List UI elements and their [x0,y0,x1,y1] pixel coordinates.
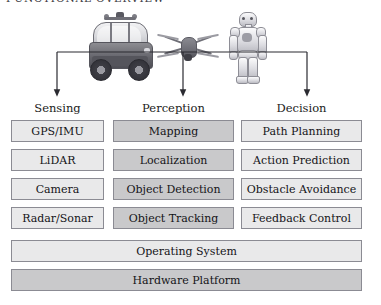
quadcopter-drone-image [160,30,216,68]
block-hardware-platform[interactable]: Hardware Platform [11,269,362,291]
block-object-detection[interactable]: Object Detection [113,178,234,200]
block-object-tracking[interactable]: Object Tracking [113,207,234,229]
block-mapping[interactable]: Mapping [113,120,234,142]
diagram-canvas: FUNCTIONAL OVERVIEW [0,0,381,305]
block-action-prediction[interactable]: Action Prediction [241,149,362,171]
robot-eye-right [250,17,253,20]
column-header-decision: Decision [241,101,362,115]
block-path-planning[interactable]: Path Planning [241,120,362,142]
column-header-sensing: Sensing [11,101,104,115]
block-obstacle-avoidance[interactable]: Obstacle Avoidance [241,178,362,200]
robot-hand-left [229,51,238,60]
robot-eye-left [242,17,245,20]
humanoid-robot-image [224,10,270,90]
car-window [97,26,141,42]
car-roof-bar [104,17,136,20]
block-localization[interactable]: Localization [113,149,234,171]
block-camera[interactable]: Camera [11,178,104,200]
block-gps-imu[interactable]: GPS/IMU [11,120,104,142]
robot-chest-panel [242,33,252,42]
drone-propeller-rear-left [157,52,179,58]
car-headlamp [144,48,150,53]
drone-camera-gimbal [184,54,192,61]
block-feedback-control[interactable]: Feedback Control [241,207,362,229]
column-header-perception: Perception [113,101,234,115]
robot-foot-right [247,76,260,84]
block-radar-sonar[interactable]: Radar/Sonar [11,207,104,229]
autonomous-car-image [84,12,158,86]
drone-propeller-front-right [197,34,219,41]
robot-hand-right [258,51,267,60]
car-wheel-rear [90,59,112,81]
car-wheel-front [128,59,150,81]
drone-propeller-front-left [157,34,179,41]
block-lidar[interactable]: LiDAR [11,149,104,171]
block-operating-system[interactable]: Operating System [11,240,362,262]
platform-images-band [0,4,381,96]
